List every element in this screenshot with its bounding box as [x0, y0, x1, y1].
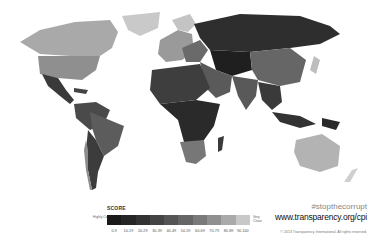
legend-tick: 10-19: [121, 229, 135, 233]
legend-tick: 50-59: [178, 229, 192, 233]
region-australia: [294, 134, 340, 172]
legend-swatch: [221, 215, 235, 225]
legend-tick: 90-100: [236, 229, 250, 233]
legend-swatch: [207, 215, 221, 225]
legend-swatch: [150, 215, 164, 225]
legend-swatch: [164, 215, 178, 225]
legend-swatch: [178, 215, 192, 225]
legend-tick: 70-79: [207, 229, 221, 233]
region-india: [232, 76, 258, 110]
legend-ticks: 0-9 10-19 20-29 30-39 40-49 50-59 60-69 …: [107, 229, 250, 233]
region-madagascar: [218, 136, 224, 152]
copyright-notice: © 2013 Transparency International. All r…: [280, 230, 367, 234]
legend-swatch: [107, 215, 121, 225]
legend-tick: 80-89: [221, 229, 235, 233]
region-china: [250, 48, 306, 86]
hashtag: #stopthecorrupt: [311, 202, 367, 211]
legend-swatch: [121, 215, 135, 225]
legend-swatch: [236, 215, 250, 225]
legend-tick: 60-69: [193, 229, 207, 233]
legend-tick: 0-9: [107, 229, 121, 233]
legend-title: SCORE: [107, 205, 126, 211]
legend-tick: 20-29: [136, 229, 150, 233]
legend-swatch: [193, 215, 207, 225]
region-indonesia: [272, 112, 316, 128]
website-link[interactable]: www.transparency.org/cpi: [275, 212, 367, 222]
region-greenland: [122, 12, 160, 36]
region-new-zealand: [344, 168, 358, 182]
region-north-africa: [150, 64, 210, 104]
legend-color-bar: [107, 215, 250, 225]
legend-swatch: [136, 215, 150, 225]
region-southern-africa: [180, 140, 206, 164]
region-russia: [194, 14, 340, 52]
legend-tick: 30-39: [150, 229, 164, 233]
region-papua-new-guinea: [322, 118, 340, 130]
legend-high-label: Very Clean: [253, 216, 263, 223]
legend-tick: 40-49: [164, 229, 178, 233]
region-japan: [310, 56, 320, 74]
region-southeast-asia: [258, 82, 282, 110]
region-canada: [20, 20, 118, 56]
region-caribbean: [74, 88, 88, 94]
region-scandinavia: [172, 14, 196, 32]
world-map: [0, 0, 380, 200]
